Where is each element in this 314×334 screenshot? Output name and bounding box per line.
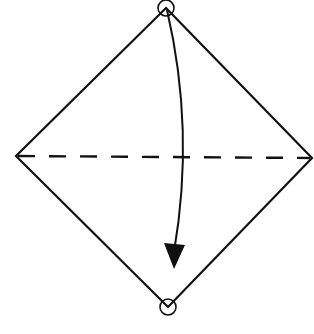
fold-diagram	[0, 0, 314, 334]
fold-arrow-curve	[167, 10, 183, 252]
arrowhead-down-icon	[164, 243, 185, 269]
fold-line-dashed	[18, 156, 310, 158]
